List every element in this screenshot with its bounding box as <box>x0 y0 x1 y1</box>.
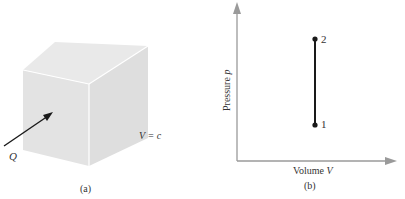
isochoric-process-line <box>312 36 317 127</box>
x-axis-arrow-icon <box>385 157 397 165</box>
box-front-face <box>23 70 89 166</box>
y-axis-arrow-icon <box>233 2 241 14</box>
caption-a: (a) <box>80 184 91 194</box>
rigid-box <box>23 42 148 166</box>
heat-label: Q <box>9 151 17 162</box>
volume-constant-label: V = c <box>139 131 161 141</box>
caption-b: (b) <box>304 181 316 191</box>
state-point-2 <box>312 36 317 41</box>
point-label-1: 1 <box>321 119 327 130</box>
x-axis-label: Volume V <box>293 166 333 176</box>
y-axis-label: Pressure p <box>222 70 232 111</box>
point-label-2: 2 <box>321 34 327 45</box>
state-point-1 <box>312 122 317 127</box>
diagram-canvas <box>0 0 405 199</box>
